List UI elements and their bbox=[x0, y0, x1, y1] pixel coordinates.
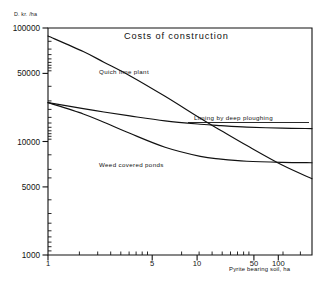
y-tick-label-1000: 1000 bbox=[0, 251, 40, 260]
y-tick-label-50000: 50000 bbox=[0, 69, 40, 78]
y-axis-unit-label: D. kr. /ha bbox=[14, 11, 37, 17]
chart-figure: D. kr. /ha Costs of construction 100000 … bbox=[0, 0, 329, 287]
y-tick-label-100000: 100000 bbox=[0, 24, 40, 33]
x-tick-label-1: 1 bbox=[46, 259, 50, 268]
x-tick-label-5: 5 bbox=[150, 259, 154, 268]
x-axis-major-ticks bbox=[48, 255, 278, 261]
curve-label-liming-by-deep-ploughing: Liming by deep ploughing bbox=[194, 114, 273, 121]
plot-canvas bbox=[0, 0, 329, 287]
plot-frame bbox=[48, 28, 312, 255]
x-tick-label-10: 10 bbox=[193, 259, 201, 268]
series-path-weed-covered-ponds bbox=[48, 103, 312, 163]
curve-label-weed-covered-ponds: Weed covered ponds bbox=[99, 161, 164, 168]
series-path-quich-lime-plant bbox=[48, 36, 312, 179]
curve-label-quich-lime-plant: Quich lime plant bbox=[99, 68, 149, 75]
chart-title: Costs of construction bbox=[124, 31, 229, 41]
y-axis-major-ticks bbox=[43, 28, 49, 255]
y-tick-label-5000: 5000 bbox=[0, 182, 40, 191]
y-tick-label-10000: 10000 bbox=[0, 137, 40, 146]
x-axis-title: Pyrite bearing soil, ha bbox=[229, 266, 290, 272]
data-curves bbox=[48, 36, 312, 179]
